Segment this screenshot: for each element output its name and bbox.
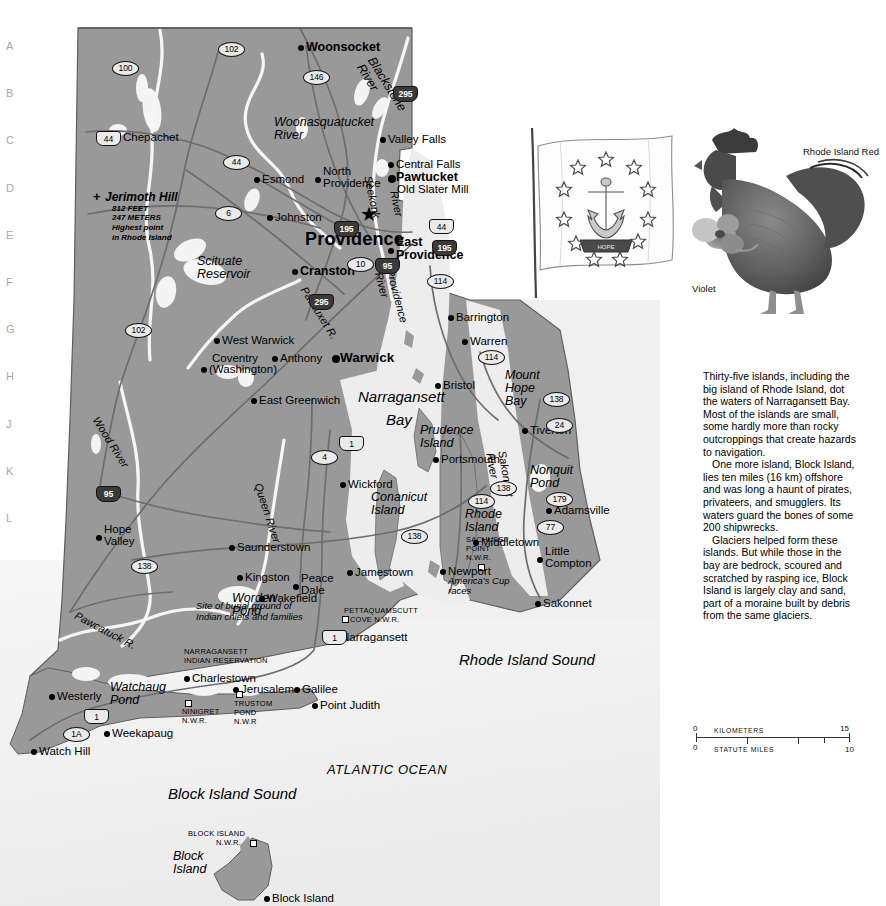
highway-shield-number: 138 bbox=[543, 392, 570, 407]
city-label[interactable]: Barrington bbox=[456, 311, 509, 323]
highway-shield-number: 1 bbox=[84, 709, 109, 724]
highway-shield-77[interactable]: 77 bbox=[537, 520, 564, 535]
city-label[interactable]: Narragansett bbox=[341, 631, 407, 643]
city-label[interactable]: Hope Valley bbox=[104, 523, 134, 547]
highway-shield-number: 295 bbox=[393, 86, 418, 102]
scale-tick bbox=[824, 738, 825, 743]
highway-shield-114[interactable]: 114 bbox=[468, 494, 495, 509]
highway-shield-295[interactable]: 295 bbox=[393, 86, 418, 102]
highway-shield-44[interactable]: 44 bbox=[96, 131, 121, 146]
city-dot-icon bbox=[104, 731, 110, 737]
highway-shield-179[interactable]: 179 bbox=[546, 492, 573, 507]
highway-shield-6[interactable]: 6 bbox=[215, 206, 242, 221]
highway-shield-95[interactable]: 95 bbox=[375, 258, 400, 274]
city-label[interactable]: Warwick bbox=[340, 351, 394, 365]
highway-shield-number: 10 bbox=[347, 257, 374, 272]
city-label[interactable]: Jerusalem bbox=[241, 683, 294, 695]
city-label[interactable]: Portsmouth bbox=[441, 453, 500, 465]
city-label[interactable]: Wakefield bbox=[267, 592, 317, 604]
highway-shield-138[interactable]: 138 bbox=[401, 529, 428, 544]
highway-shield-number: 95 bbox=[96, 486, 121, 502]
map-scale-bar: 0 15 0 10 KILOMETERS STATUTE MILES bbox=[688, 722, 862, 758]
city-label[interactable]: Wickford bbox=[348, 478, 393, 490]
city-label[interactable]: Point Judith bbox=[320, 699, 380, 711]
city-label[interactable]: Johnston bbox=[275, 211, 322, 223]
highway-shield-1[interactable]: 1 bbox=[322, 630, 347, 645]
city-dot-icon bbox=[293, 584, 299, 590]
highway-shield-195[interactable]: 195 bbox=[432, 240, 457, 256]
map-annotation: N.W.R. bbox=[216, 839, 241, 847]
city-dot-icon bbox=[298, 45, 304, 51]
map-annotation: in Rhode Island bbox=[112, 234, 172, 242]
city-label[interactable]: East Greenwich bbox=[259, 394, 340, 406]
story-paragraph: One more island, Block Island, lies ten … bbox=[703, 458, 861, 534]
city-label[interactable]: Old Slater Mill bbox=[397, 183, 469, 195]
city-dot-icon bbox=[254, 177, 260, 183]
wildlife-refuge-icon bbox=[185, 700, 192, 707]
map-feature-label: Nonquit Pond bbox=[530, 464, 573, 490]
city-label[interactable]: Chepachet bbox=[123, 131, 179, 143]
scale-km-start: 0 bbox=[693, 724, 697, 733]
city-label[interactable]: Esmond bbox=[262, 173, 304, 185]
city-label[interactable]: Warren bbox=[470, 335, 507, 347]
highway-shield-1A[interactable]: 1A bbox=[63, 727, 90, 742]
city-label[interactable]: Valley Falls bbox=[388, 133, 446, 145]
highway-shield-138[interactable]: 138 bbox=[131, 559, 158, 574]
highway-shield-1[interactable]: 1 bbox=[84, 709, 109, 724]
highway-shield-44[interactable]: 44 bbox=[223, 155, 250, 170]
city-label[interactable]: North Providence bbox=[323, 165, 381, 189]
city-label[interactable]: Galilee bbox=[302, 683, 338, 695]
map-feature-label: Mount Hope Bay bbox=[505, 369, 540, 408]
scale-km-label: KILOMETERS bbox=[714, 727, 764, 734]
map-feature-label: Block Island bbox=[173, 850, 206, 876]
city-label[interactable]: Weekapaug bbox=[112, 727, 173, 739]
city-dot-icon bbox=[233, 687, 239, 693]
state-bird-illustration: Rhode Island Red Violet bbox=[690, 120, 880, 320]
highway-shield-10[interactable]: 10 bbox=[347, 257, 374, 272]
city-dot-icon bbox=[315, 177, 321, 183]
highway-shield-100[interactable]: 100 bbox=[112, 61, 139, 76]
city-dot-icon bbox=[448, 315, 454, 321]
city-label[interactable]: West Warwick bbox=[222, 334, 294, 346]
city-label[interactable]: Middletown bbox=[481, 536, 539, 548]
highway-shield-number: 295 bbox=[309, 294, 334, 310]
city-label[interactable]: Little Compton bbox=[545, 545, 592, 569]
city-dot-icon bbox=[96, 535, 102, 541]
highway-shield-195[interactable]: 195 bbox=[334, 221, 359, 237]
highway-shield-138[interactable]: 138 bbox=[543, 392, 570, 407]
city-label[interactable]: Kingston bbox=[245, 571, 290, 583]
map-feature-label: ATLANTIC OCEAN bbox=[327, 763, 447, 777]
highway-shield-114[interactable]: 114 bbox=[478, 350, 505, 365]
city-label[interactable]: Block Island bbox=[272, 892, 334, 904]
city-label[interactable]: Westerly bbox=[57, 690, 102, 702]
city-label[interactable]: Bristol bbox=[443, 379, 475, 391]
highway-shield-146[interactable]: 146 bbox=[303, 70, 330, 85]
city-label[interactable]: Anthony bbox=[280, 352, 322, 364]
map-annotation: BLOCK ISLAND bbox=[188, 830, 245, 838]
city-dot-icon bbox=[272, 356, 278, 362]
city-label[interactable]: (Washington) bbox=[209, 363, 277, 375]
map-feature-label: Watchaug Pond bbox=[110, 681, 166, 707]
city-label[interactable]: Watch Hill bbox=[39, 745, 90, 757]
highway-shield-295[interactable]: 295 bbox=[309, 294, 334, 310]
city-label[interactable]: Jamestown bbox=[355, 566, 413, 578]
city-dot-icon bbox=[347, 570, 353, 576]
scale-mi-start: 0 bbox=[693, 743, 697, 752]
highway-shield-number: 179 bbox=[546, 492, 573, 507]
city-label[interactable]: Saunderstown bbox=[237, 541, 311, 553]
highway-shield-24[interactable]: 24 bbox=[546, 418, 573, 433]
city-label[interactable]: Woonsocket bbox=[306, 41, 380, 54]
highway-shield-number: 44 bbox=[96, 131, 121, 146]
highway-shield-102[interactable]: 102 bbox=[125, 323, 152, 338]
highway-shield-114[interactable]: 114 bbox=[427, 274, 454, 289]
highway-shield-44[interactable]: 44 bbox=[429, 219, 454, 234]
highway-shield-95[interactable]: 95 bbox=[96, 486, 121, 502]
map-annotation: N.W.R. bbox=[466, 554, 491, 562]
map-annotation: Highest point bbox=[112, 224, 163, 232]
highway-shield-4[interactable]: 4 bbox=[311, 450, 338, 465]
city-label[interactable]: Newport bbox=[448, 565, 491, 577]
highway-shield-102[interactable]: 102 bbox=[218, 42, 245, 57]
highway-shield-1[interactable]: 1 bbox=[339, 436, 364, 451]
city-label[interactable]: Sakonnet bbox=[543, 597, 592, 609]
city-label[interactable]: Central Falls bbox=[396, 158, 461, 170]
